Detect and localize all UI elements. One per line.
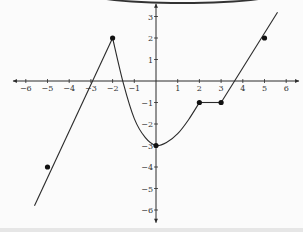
x-tick-label: −5: [42, 84, 54, 93]
bottom-edge-bar: [0, 228, 303, 232]
y-axis-arrow-down: [154, 219, 158, 223]
y-axis-arrow-up: [154, 4, 158, 8]
x-tick-label: 5: [262, 84, 267, 93]
y-tick-label: 2: [148, 34, 153, 43]
segment-left: [34, 38, 112, 206]
data-point: [197, 100, 202, 105]
segment-right: [221, 12, 277, 102]
data-point: [262, 35, 267, 40]
y-tick-label: −1: [141, 99, 153, 108]
y-tick-label: −5: [141, 185, 153, 194]
data-point: [45, 164, 50, 169]
chart-container: −6−5−4−3−2−1123456−6−5−4−3−2−1123: [0, 0, 303, 232]
x-tick-label: 4: [240, 84, 245, 93]
x-tick-label: 3: [219, 84, 224, 93]
data-point: [110, 35, 115, 40]
y-tick-label: 3: [148, 13, 153, 22]
x-tick-label: −1: [128, 84, 140, 93]
x-axis-arrow-left: [13, 79, 17, 83]
data-point: [219, 100, 224, 105]
x-tick-label: −2: [107, 84, 119, 93]
y-tick-label: −2: [141, 120, 153, 129]
x-tick-label: −4: [63, 84, 75, 93]
y-tick-label: 1: [148, 56, 153, 65]
data-point: [153, 143, 158, 148]
x-axis-arrow-right: [295, 79, 299, 83]
x-tick-label: 6: [284, 84, 289, 93]
y-tick-label: −4: [141, 163, 153, 172]
x-tick-label: 1: [175, 84, 180, 93]
function-graph: −6−5−4−3−2−1123456−6−5−4−3−2−1123: [0, 0, 303, 232]
x-tick-label: −6: [20, 84, 32, 93]
y-tick-label: −6: [141, 206, 153, 215]
x-tick-label: 2: [197, 84, 202, 93]
